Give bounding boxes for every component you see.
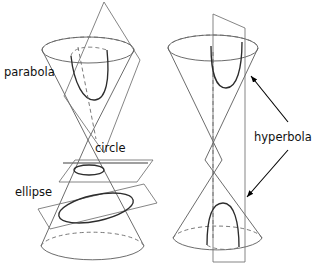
circle-label: circle (95, 141, 126, 155)
hyperbola-lower-branch (207, 203, 239, 247)
ellipse-label: ellipse (15, 185, 52, 199)
circle-curve (74, 165, 104, 175)
left-double-cone-group: parabola circle ellipse (4, 2, 157, 260)
parabola-curve (71, 50, 108, 100)
diagram-canvas: parabola circle ellipse (0, 0, 318, 267)
parabola-label: parabola (4, 65, 55, 79)
lower-cone-base-front-arc (41, 246, 144, 260)
hyperbola-upper-branch (211, 42, 242, 88)
ellipse-cutting-plane (38, 184, 157, 229)
left-upper-cone (42, 37, 134, 140)
lower-cone-base-back-arc (41, 232, 144, 246)
right-lower-cone-base-back-arc (173, 226, 262, 238)
parabola-curve-hidden (71, 47, 107, 56)
hyperbola-label: hyperbola (254, 130, 312, 144)
right-double-cone-group: hyperbola (168, 14, 312, 262)
circle-cutting-plane (59, 160, 153, 182)
hyperbola-arrow-upper (251, 76, 288, 122)
ellipse-plane-outline (38, 184, 157, 229)
conic-sections-figure: parabola circle ellipse (0, 0, 318, 267)
hyperbola-cutting-plane (213, 14, 245, 262)
hyperbola-plane-outline (213, 14, 245, 262)
right-lower-cone-base-front-arc (173, 238, 262, 250)
left-lower-cone (41, 140, 144, 260)
right-upper-cone-left-edge (168, 48, 222, 160)
hyperbola-arrow-lower (247, 150, 288, 197)
upper-cone-right-edge (88, 50, 134, 140)
